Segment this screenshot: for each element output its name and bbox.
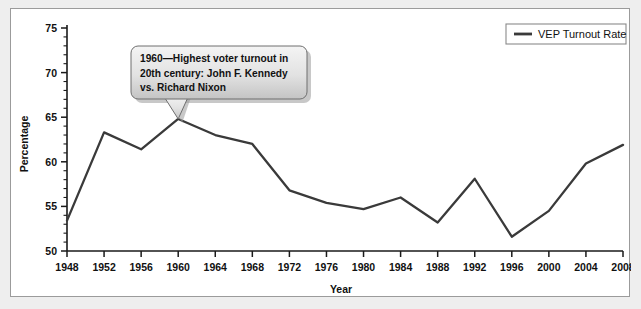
x-tick-label: 1988 [426, 261, 450, 273]
page-root: 505560657075 194819521956196019641968197… [0, 0, 641, 309]
x-tick-label: 1980 [352, 261, 376, 273]
y-tick-label: 70 [45, 67, 57, 79]
x-tick-label: 1964 [204, 261, 228, 273]
y-axis: 505560657075 [45, 22, 67, 257]
x-tick-label: 1996 [500, 261, 524, 273]
chart-panel: 505560657075 194819521956196019641968197… [10, 8, 630, 297]
annotation-callout: 1960—Highest voter turnout in20th centur… [131, 46, 311, 123]
y-tick-label: 65 [45, 111, 57, 123]
x-tick-label: 1948 [55, 261, 79, 273]
x-axis: 1948195219561960196419681972197619801984… [55, 251, 631, 273]
x-axis-title: Year [330, 283, 352, 295]
callout-text-line: 1960—Highest voter turnout in [140, 53, 288, 64]
x-tick-label: 1976 [315, 261, 339, 273]
series-group [67, 119, 623, 237]
x-tick-label: 1956 [129, 261, 153, 273]
y-axis-title: Percentage [18, 116, 30, 173]
x-tick-label: 1972 [278, 261, 302, 273]
line-chart: 505560657075 194819521956196019641968197… [11, 9, 631, 298]
x-tick-label: 1960 [167, 261, 191, 273]
x-tick-label: 2000 [537, 261, 561, 273]
x-tick-label: 1992 [463, 261, 487, 273]
y-tick-label: 75 [45, 22, 57, 34]
callout-text-line: 20th century: John F. Kennedy [140, 68, 288, 79]
x-tick-label: 1952 [92, 261, 116, 273]
y-tick-label: 60 [45, 156, 57, 168]
x-tick-label: 1984 [389, 261, 413, 273]
x-tick-label: 2008 [611, 261, 631, 273]
series-line-vep-turnout-rate [67, 119, 623, 237]
y-tick-label: 55 [45, 200, 57, 212]
chart-legend[interactable]: VEP Turnout Rate [506, 24, 626, 44]
callout-text-line: vs. Richard Nixon [140, 82, 226, 93]
legend-label: VEP Turnout Rate [538, 28, 626, 40]
y-tick-label: 50 [45, 245, 57, 257]
x-tick-label: 1968 [241, 261, 265, 273]
x-tick-label: 2004 [574, 261, 598, 273]
